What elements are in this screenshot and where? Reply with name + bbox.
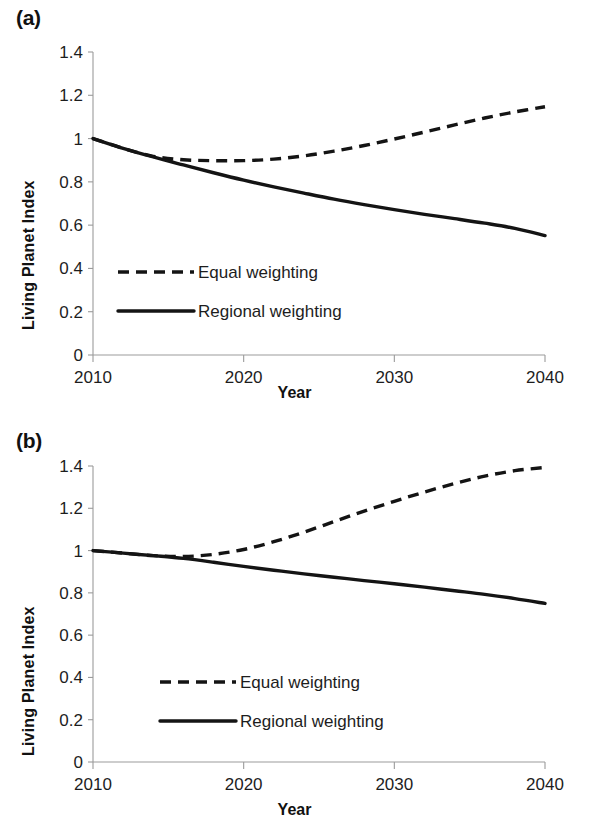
plot-area-a: 00.20.40.60.811.21.42010202020302040Equa… xyxy=(0,0,589,400)
y-tick-label: 0.4 xyxy=(59,668,83,687)
x-tick-label: 2020 xyxy=(225,775,263,794)
chart-panel-a: (a) Living Planet Index 00.20.40.60.811.… xyxy=(0,0,589,412)
y-tick-label: 0.2 xyxy=(59,303,83,322)
x-axis-title-a: Year xyxy=(0,384,589,402)
y-tick-label: 0.6 xyxy=(59,216,83,235)
y-tick-label: 0.2 xyxy=(59,711,83,730)
legend-label-regional-weighting: Regional weighting xyxy=(240,712,384,731)
y-tick-label: 1 xyxy=(74,542,83,561)
y-tick-label: 0.8 xyxy=(59,173,83,192)
y-tick-label: 1 xyxy=(74,130,83,149)
y-tick-label: 1.2 xyxy=(59,86,83,105)
y-tick-label: 1.2 xyxy=(59,499,83,518)
y-tick-label: 1.4 xyxy=(59,43,83,62)
x-tick-label: 2040 xyxy=(526,775,564,794)
y-tick-label: 0 xyxy=(74,346,83,365)
x-axis-title-b: Year xyxy=(0,801,589,819)
x-tick-label: 2030 xyxy=(375,775,413,794)
series-line-regional-weighting xyxy=(93,139,545,236)
series-line-equal-weighting xyxy=(93,107,545,161)
legend-label-equal-weighting: Equal weighting xyxy=(198,263,318,282)
legend-label-regional-weighting: Regional weighting xyxy=(198,302,342,321)
plot-area-b: 00.20.40.60.811.21.42010202020302040Equa… xyxy=(0,411,589,811)
series-line-regional-weighting xyxy=(93,551,545,604)
legend-label-equal-weighting: Equal weighting xyxy=(240,673,360,692)
figure-two-panel-line-charts: (a) Living Planet Index 00.20.40.60.811.… xyxy=(0,0,589,823)
series-line-equal-weighting xyxy=(93,467,545,556)
y-tick-label: 0.4 xyxy=(59,259,83,278)
y-tick-label: 0.8 xyxy=(59,584,83,603)
y-tick-label: 1.4 xyxy=(59,457,83,476)
chart-panel-b: (b) Living Planet Index 00.20.40.60.811.… xyxy=(0,411,589,823)
x-tick-label: 2010 xyxy=(74,775,112,794)
y-tick-label: 0 xyxy=(74,753,83,772)
y-tick-label: 0.6 xyxy=(59,626,83,645)
